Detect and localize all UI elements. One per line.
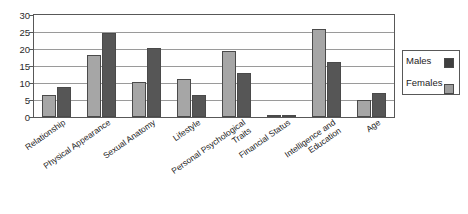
legend-swatch-females bbox=[444, 84, 454, 94]
legend-label: Males bbox=[406, 55, 431, 66]
bar-females bbox=[42, 95, 57, 117]
bar-group bbox=[214, 15, 259, 117]
bar-group bbox=[79, 15, 124, 117]
x-tick-label-line: Lifestyle bbox=[171, 117, 202, 143]
y-tick-label-25: 25 bbox=[4, 28, 30, 37]
x-tick-label-line: Relationship bbox=[23, 117, 67, 152]
bar-females bbox=[357, 100, 372, 117]
bar-females bbox=[267, 115, 282, 117]
bar-males bbox=[372, 93, 387, 117]
y-tick-label-10: 10 bbox=[4, 79, 30, 88]
bar-females bbox=[132, 82, 147, 117]
y-tick-label-30: 30 bbox=[4, 11, 30, 20]
bar-males bbox=[327, 62, 342, 117]
bar-males bbox=[237, 73, 252, 117]
y-tick-label-5: 5 bbox=[4, 96, 30, 105]
legend-swatch-males bbox=[444, 58, 454, 68]
bar-group bbox=[124, 15, 169, 117]
legend-item-females[interactable]: Females bbox=[403, 74, 459, 96]
x-tick-label-line: Age bbox=[364, 117, 382, 134]
bar-group bbox=[259, 15, 304, 117]
bar-females bbox=[87, 55, 102, 117]
bar-chart: 051015202530 RelationshipPhysical Appear… bbox=[0, 0, 468, 214]
y-axis: 051015202530 bbox=[0, 14, 30, 118]
x-axis-labels: RelationshipPhysical AppearanceSexual An… bbox=[0, 118, 468, 214]
bar-females bbox=[222, 51, 237, 117]
bar-females bbox=[177, 79, 192, 117]
bar-males bbox=[192, 95, 207, 117]
bars-layer bbox=[34, 15, 394, 117]
bar-group bbox=[169, 15, 214, 117]
bar-males bbox=[102, 33, 117, 117]
chart-legend: MalesFemales bbox=[402, 50, 460, 95]
x-tick-label-0: Relationship bbox=[24, 118, 68, 153]
x-tick-label-7: Age bbox=[365, 118, 383, 134]
y-tick-label-20: 20 bbox=[4, 45, 30, 54]
bar-males bbox=[282, 115, 297, 117]
bar-group bbox=[34, 15, 79, 117]
bar-group bbox=[304, 15, 349, 117]
bar-group bbox=[349, 15, 394, 117]
x-tick-label-3: Lifestyle bbox=[171, 118, 202, 144]
bar-males bbox=[57, 87, 72, 117]
bar-females bbox=[312, 29, 327, 117]
y-tick-label-15: 15 bbox=[4, 62, 30, 71]
x-tick-label-line: Personal Psychological bbox=[169, 117, 247, 176]
legend-label: Females bbox=[406, 77, 442, 88]
legend-item-males[interactable]: Males bbox=[403, 52, 459, 74]
bar-males bbox=[147, 48, 162, 117]
